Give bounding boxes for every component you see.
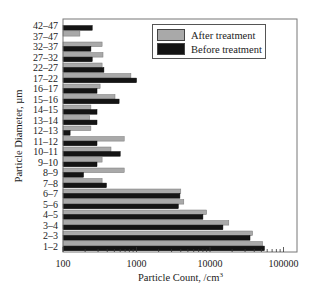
y-tick-label: 9–10	[38, 157, 58, 168]
y-tick-label: 6–7	[43, 188, 58, 199]
x-tick-label: 100000	[269, 258, 299, 269]
bar-before	[63, 215, 203, 220]
y-tick-label: 4–5	[43, 209, 58, 220]
bar-after	[63, 84, 100, 89]
y-tick-label: 32–37	[33, 41, 58, 52]
bar-before	[63, 141, 97, 146]
bar-after	[63, 42, 102, 47]
x-tick-label: 100	[56, 258, 71, 269]
bar-after	[63, 168, 124, 173]
y-tick-label: 1–2	[43, 241, 58, 252]
y-tick-label: 16–17	[33, 83, 58, 94]
bar-before	[63, 194, 180, 199]
y-tick-label: 12–13	[33, 125, 58, 136]
y-tick-label: 11–12	[33, 136, 58, 147]
bar-after	[63, 63, 102, 68]
bar-after	[63, 179, 102, 184]
bar-before	[63, 183, 106, 188]
bar-before	[63, 173, 84, 178]
y-tick-label: 17–22	[33, 73, 58, 84]
bar-before	[63, 225, 223, 230]
bar-after	[63, 74, 131, 79]
bar-before	[63, 57, 92, 62]
legend-item-before: Before treatment	[157, 43, 262, 55]
bar-after	[63, 147, 111, 152]
bar-before	[63, 68, 104, 73]
after-swatch-icon	[157, 29, 185, 41]
y-tick-label: 37–47	[33, 31, 58, 42]
bar-before	[63, 26, 92, 31]
bar-before	[63, 89, 97, 94]
legend: After treatment Before treatment	[152, 24, 266, 59]
bar-after	[63, 126, 91, 131]
bar-before	[63, 204, 178, 209]
legend-after-label: After treatment	[191, 30, 255, 41]
bar-before	[63, 152, 120, 157]
bar-before	[63, 78, 137, 83]
y-tick-label: 14–15	[33, 104, 58, 115]
x-tick-label: 1000	[127, 258, 147, 269]
y-tick-label: 5–6	[43, 199, 58, 210]
y-tick-label: 3–4	[43, 220, 58, 231]
bar-before	[63, 110, 97, 115]
y-tick-label: 15–16	[33, 94, 58, 105]
bar-before	[63, 99, 119, 104]
bar-after	[63, 158, 102, 163]
y-tick-label: 27–32	[33, 52, 58, 63]
bar-after	[63, 137, 124, 142]
before-swatch-icon	[157, 43, 185, 55]
bar-before	[63, 162, 97, 167]
y-tick-label: 42–47	[33, 20, 58, 31]
y-axis-title: Particle Diameter, µm	[13, 90, 24, 183]
y-tick-label: 8–9	[43, 167, 58, 178]
y-tick-label: 22–27	[33, 62, 58, 73]
bar-before	[63, 236, 250, 241]
bar-after	[63, 242, 263, 247]
legend-item-after: After treatment	[157, 29, 255, 41]
bar-before	[63, 131, 70, 136]
bar-after	[63, 210, 207, 215]
bar-after	[63, 32, 80, 37]
bar-after	[63, 231, 253, 236]
bar-after	[63, 200, 184, 205]
y-tick-label: 13–14	[33, 115, 58, 126]
y-tick-labels: 42–4737–4732–3727–3222–2717–2216–1715–16…	[33, 20, 58, 252]
x-tick-label: 10000	[198, 258, 223, 269]
bar-after	[63, 53, 103, 58]
y-tick-label: 7–8	[43, 178, 58, 189]
legend-before-label: Before treatment	[191, 44, 262, 55]
bars-group	[63, 26, 264, 251]
bar-after	[63, 116, 90, 121]
y-tick-label: 2–3	[43, 230, 58, 241]
x-axis-title: Particle Count, /cm3	[138, 271, 223, 283]
y-tick-label: 10–11	[33, 146, 58, 157]
bar-after	[63, 189, 181, 194]
bar-before	[63, 47, 91, 52]
bar-before	[63, 120, 97, 125]
bar-after	[63, 221, 229, 226]
bar-after	[63, 105, 91, 110]
bar-after	[63, 95, 115, 100]
bar-before	[63, 246, 264, 251]
